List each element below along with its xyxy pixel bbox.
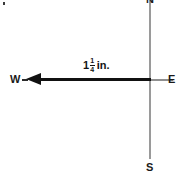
fraction-numerator: 1: [90, 57, 94, 64]
scan-artifact-speck: [3, 2, 5, 5]
vector-shaft: [38, 78, 151, 81]
compass-label-south: S: [146, 162, 153, 173]
compass-label-west: W: [10, 74, 20, 85]
compass-vector-figure: N S E W 1 1 4 in.: [0, 0, 179, 184]
compass-label-east: E: [168, 74, 175, 85]
fraction-denominator: 4: [90, 66, 94, 73]
vector-measurement-label: 1 1 4 in.: [83, 57, 109, 73]
measurement-whole-number: 1: [83, 58, 89, 72]
compass-label-north: N: [146, 0, 154, 5]
measurement-fraction: 1 4: [90, 57, 95, 73]
measurement-unit: in.: [97, 58, 110, 72]
